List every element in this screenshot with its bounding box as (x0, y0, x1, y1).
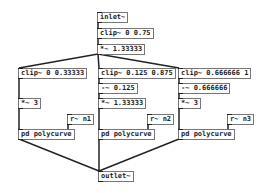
receive-n3-object[interactable]: r~ n3 (227, 114, 254, 125)
clip-1-object[interactable]: clip~ 0 0.33333 (18, 68, 87, 79)
cord (98, 54, 99, 68)
polycurve-1-subpatch[interactable]: pd polycurve (18, 129, 75, 140)
inlet-object[interactable]: inlet~ (97, 12, 128, 23)
multiply-3-object[interactable]: *~ 3 (178, 98, 201, 109)
cord (19, 54, 98, 68)
receive-n1-object[interactable]: r~ n1 (67, 114, 94, 125)
clip-3-object[interactable]: clip~ 0.666666 1 (178, 68, 251, 79)
subtract-2-object[interactable]: -~ 0.125 (98, 83, 138, 94)
subtract-3-object[interactable]: -~ 0.666666 (178, 83, 230, 94)
multiply-main-object[interactable]: *~ 1.33333 (97, 44, 145, 55)
polycurve-2-subpatch[interactable]: pd polycurve (98, 129, 155, 140)
pd-patch-canvas: inlet~ clip~ 0 0.75 *~ 1.33333 clip~ 0 0… (0, 0, 263, 193)
polycurve-3-subpatch[interactable]: pd polycurve (178, 129, 235, 140)
cord (19, 139, 99, 171)
clip-main-object[interactable]: clip~ 0 0.75 (97, 28, 154, 39)
cord (98, 54, 179, 68)
outlet-object[interactable]: outlet~ (98, 171, 134, 182)
receive-n2-object[interactable]: r~ n2 (147, 114, 174, 125)
multiply-1-object[interactable]: *~ 3 (18, 98, 41, 109)
multiply-2-object[interactable]: *~ 1.33333 (98, 98, 146, 109)
clip-2-object[interactable]: clip~ 0.125 0.875 (98, 68, 176, 79)
cord (99, 139, 179, 171)
